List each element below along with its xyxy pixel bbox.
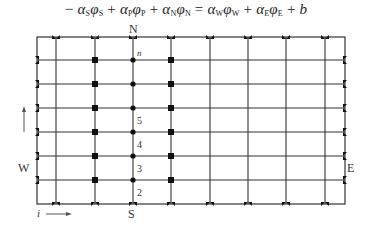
square-node-icon: [92, 81, 98, 87]
square-node-icon: [168, 105, 174, 111]
circle-node-icon: [130, 81, 135, 86]
square-node-icon: [168, 57, 174, 63]
square-node-icon: [92, 57, 98, 63]
up-arrow-icon: [22, 106, 26, 132]
label-west: W: [18, 161, 30, 175]
label-south: S: [128, 207, 135, 221]
square-node-icon: [168, 129, 174, 135]
circle-node-icon: [130, 105, 135, 110]
label-row-4: 4: [137, 139, 142, 150]
circle-node-icon: [130, 153, 135, 158]
horizontal-grid-lines: [37, 60, 345, 180]
frame-rect: [37, 37, 345, 204]
label-north: N: [129, 22, 138, 36]
label-row-2: 2: [137, 187, 142, 198]
right-arrow-icon: [46, 212, 72, 216]
grid-frame: [37, 37, 345, 204]
square-node-icon: [168, 177, 174, 183]
label-east: E: [347, 161, 354, 175]
label-row-5: 5: [137, 115, 142, 126]
square-node-icon: [168, 81, 174, 87]
circle-node-icon: [130, 57, 135, 62]
circle-node-icon: [130, 177, 135, 182]
square-node-icon: [168, 153, 174, 159]
grid-diagram: N S W E n 5 4 3 2 i: [0, 0, 372, 228]
circle-node-icon: [130, 129, 135, 134]
square-node-icon: [92, 129, 98, 135]
square-node-icon: [92, 105, 98, 111]
label-i-axis: i: [37, 207, 40, 219]
square-node-icon: [92, 177, 98, 183]
label-row-3: 3: [137, 163, 142, 174]
square-node-icon: [92, 153, 98, 159]
label-node-n: n: [137, 48, 142, 58]
